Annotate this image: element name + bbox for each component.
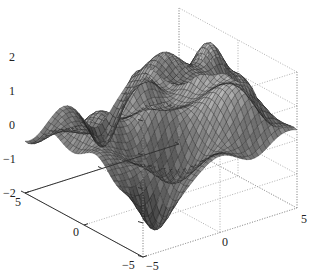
z-tick-label-neg1: −1 bbox=[3, 153, 16, 165]
z-tick-label-0: 0 bbox=[9, 119, 15, 131]
y-tick-label-neg5: −5 bbox=[146, 260, 159, 272]
z-tick-label-neg2: −2 bbox=[3, 187, 16, 199]
surface-plot-figure: 2 1 0 −1 −2 5 0 −5 −5 0 5 bbox=[0, 0, 315, 276]
x-tick-label-0: 0 bbox=[73, 226, 79, 238]
x-tick-label-5: 5 bbox=[15, 196, 21, 208]
y-tick-label-5: 5 bbox=[301, 213, 307, 225]
x-tick-label-neg5: −5 bbox=[122, 259, 135, 271]
surface-mesh bbox=[25, 43, 297, 230]
y-tick-label-0: 0 bbox=[222, 236, 228, 248]
surface-plot-canvas bbox=[0, 0, 315, 276]
z-tick-label-2: 2 bbox=[9, 51, 15, 63]
z-tick-label-1: 1 bbox=[9, 85, 15, 97]
